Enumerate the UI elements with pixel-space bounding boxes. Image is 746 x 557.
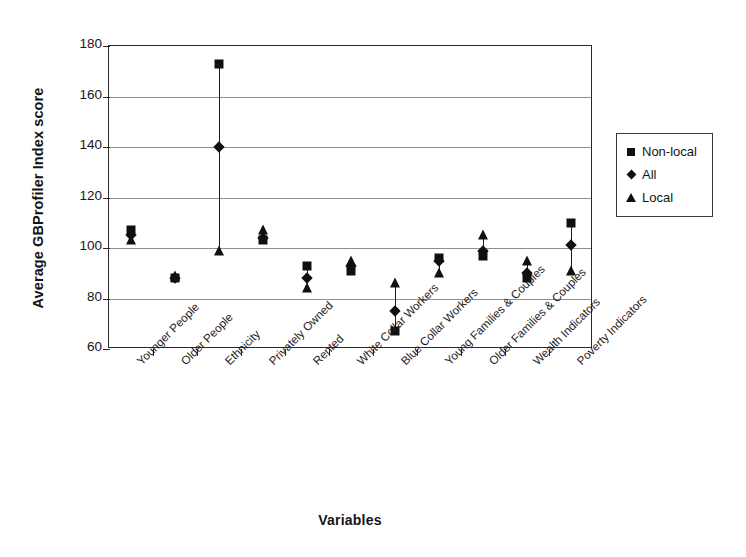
data-point [346, 255, 356, 265]
y-axis-tick-label: 100 [60, 238, 102, 253]
data-point [566, 265, 576, 275]
triangle-marker-icon [624, 193, 638, 202]
data-point [302, 283, 312, 293]
y-axis-title: Average GBProfiler Index score [30, 48, 46, 348]
x-axis-tick [417, 349, 418, 356]
y-axis-tick [103, 349, 110, 350]
data-point [213, 141, 224, 152]
x-axis-tick [505, 349, 506, 356]
x-axis-tick [153, 349, 154, 356]
legend: Non-local All Local [616, 133, 713, 217]
diamond-marker-icon [624, 171, 638, 178]
y-axis-tick-label: 120 [60, 188, 102, 203]
legend-item-all: All [624, 163, 706, 186]
x-axis-tick [461, 349, 462, 356]
data-point [565, 240, 576, 251]
data-point [126, 235, 136, 245]
square-marker-icon [624, 148, 638, 156]
data-point [478, 230, 488, 240]
data-point [215, 59, 224, 68]
x-axis-tick [373, 349, 374, 356]
x-axis-tick [329, 349, 330, 356]
data-point [389, 305, 400, 316]
y-axis-tick-label: 60 [60, 339, 102, 354]
x-axis-tick [285, 349, 286, 356]
x-axis-tick [241, 349, 242, 356]
legend-label: All [642, 168, 656, 181]
x-axis-title: Variables [108, 512, 592, 528]
data-point [390, 278, 400, 288]
data-points-layer [109, 46, 591, 347]
data-point [170, 270, 180, 280]
legend-label: Non-local [642, 145, 697, 158]
y-axis-tick-label: 160 [60, 87, 102, 102]
data-point [391, 327, 400, 336]
y-axis-tick-label: 140 [60, 137, 102, 152]
y-axis-tick-label: 80 [60, 289, 102, 304]
x-axis-tick [197, 349, 198, 356]
legend-item-non-local: Non-local [624, 140, 706, 163]
data-point [522, 255, 532, 265]
plot-area [108, 45, 592, 348]
y-axis-tick-label: 180 [60, 36, 102, 51]
data-point [258, 225, 268, 235]
legend-label: Local [642, 191, 673, 204]
x-axis-tick [549, 349, 550, 356]
data-point [303, 261, 312, 270]
data-point [214, 245, 224, 255]
legend-item-local: Local [624, 186, 706, 209]
range-connector [219, 64, 220, 251]
data-point [434, 268, 444, 278]
chart-figure: Average GBProfiler Index score 608010012… [0, 0, 746, 557]
data-point [567, 218, 576, 227]
